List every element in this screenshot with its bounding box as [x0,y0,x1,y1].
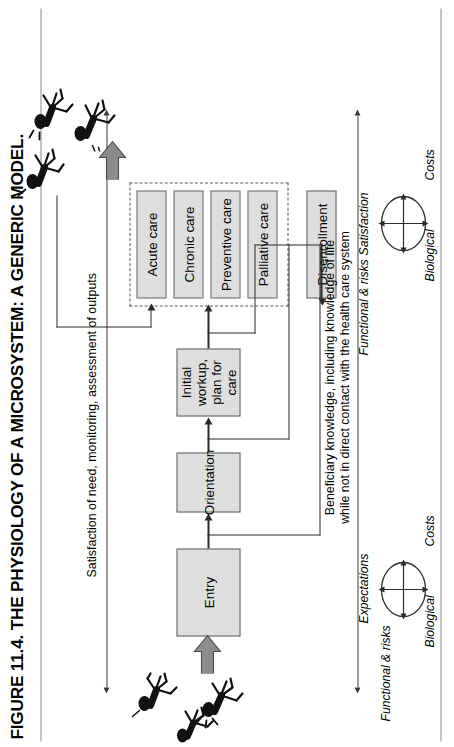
circle-right-label-bottom: Biological [422,229,436,281]
care-item-preventive[interactable]: Preventive care [210,190,240,298]
care-item-label: Acute care [144,212,159,276]
connector-workup-disenroll-h [254,244,255,333]
connector-orientation-disenroll-v [207,438,289,439]
orientation-label: Orientation [201,449,216,515]
care-item-label: Preventive care [218,197,233,290]
care-item-acute[interactable]: Acute care [136,190,166,298]
care-item-label: Chronic care [181,206,196,282]
circle-right-label-left: Functional & risks [356,259,370,355]
people-group-loop [6,139,72,209]
connector-disenroll-riser [254,244,320,245]
initial-workup-label-line1: Initial workup, [178,349,208,415]
circle-right-label-right: Costs [422,149,436,180]
people-group-entering [122,669,256,747]
figure-canvas: FIGURE 11.4. THE PHYSIOLOGY OF A MICROSY… [0,0,454,747]
care-item-chronic[interactable]: Chronic care [173,190,203,298]
feedback-loop-into-acute [150,309,151,327]
connector-workup-disenroll-v [207,332,255,333]
connector-disenroll-entry [320,243,321,303]
bottom-axis-label-line2: while not in direct contact with the hea… [337,231,351,524]
feedback-loop-top [56,195,57,327]
circle-left-label-left: Functional & risks [378,625,392,721]
entry-box[interactable]: Entry [176,548,240,636]
bottom-axis-label-line1: Beneficiary knowledge, including knowled… [322,239,336,515]
arrowhead-feedback-acute [147,303,155,310]
circle-left-label-right: Costs [422,515,436,546]
figure-bottom-divider [440,8,441,741]
block-arrow-in [192,633,226,673]
connector-orientation-disenroll-h [288,244,289,439]
orientation-box[interactable]: Orientation [176,452,240,512]
initial-workup-label-line2: plan for care [208,349,238,415]
initial-workup-box[interactable]: Initial workup, plan for care [176,348,240,416]
circle-left-label-bottom: Biological [422,595,436,647]
connector-workup-caregroup [207,310,208,348]
circle-left-label-top: Expectations [356,553,370,623]
arrowhead-orientation-workup [204,417,212,424]
entry-label: Entry [201,576,216,607]
circle-right-label-top: Satisfaction [356,192,370,255]
page-title: FIGURE 11.4. THE PHYSIOLOGY OF A MICROSY… [6,134,27,739]
bottom-axis-label-wrap: Beneficiary knowledge, including knowled… [322,212,352,542]
top-axis-label: Satisfaction of need, monitoring, assess… [84,273,98,577]
connector-entry-disenroll-v [207,534,320,535]
people-group-exiting [18,41,132,151]
feedback-loop-riser [56,326,151,327]
